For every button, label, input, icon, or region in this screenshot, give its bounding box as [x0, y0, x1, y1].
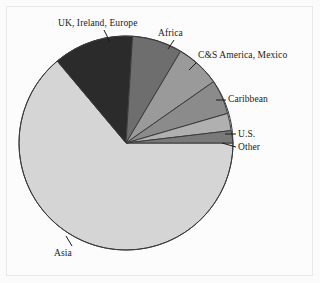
pie-label-other: Other: [238, 143, 260, 153]
pie-label-africa: Africa: [158, 29, 183, 39]
pie-label-caribbean: Caribbean: [228, 95, 268, 105]
pie-label-us: U.S.: [238, 130, 255, 140]
pie-chart-plot: [0, 0, 320, 283]
pie-label-cs-america-mexico: C&S America, Mexico: [198, 51, 287, 61]
pie-label-asia: Asia: [54, 249, 72, 259]
pie-slices: [19, 36, 233, 250]
leader-line-asia: [66, 236, 72, 246]
pie-label-uk-ireland-europe: UK, Ireland, Europe: [58, 19, 137, 29]
pie-chart-figure: UK, Ireland, Europe Africa C&S America, …: [0, 0, 320, 283]
